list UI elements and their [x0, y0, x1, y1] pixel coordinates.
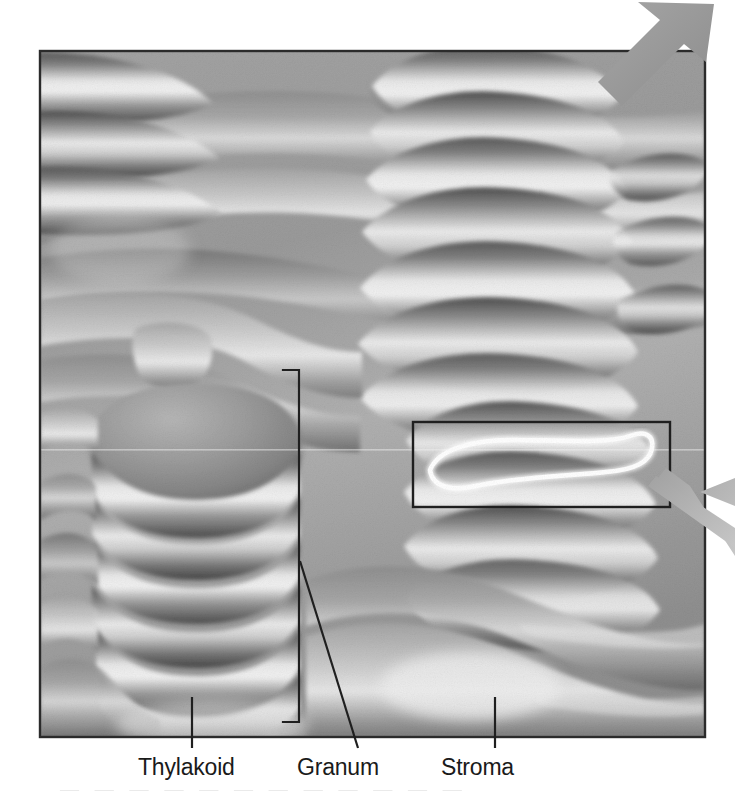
label-granum: Granum [297, 756, 379, 779]
label-thylakoid: Thylakoid [138, 756, 235, 779]
page-bleed-through: — — — — — — — — — — — — [60, 778, 468, 800]
figure-root: — — — — — — — — — — — — Thylakoid Granum… [0, 0, 735, 809]
label-stroma: Stroma [441, 756, 514, 779]
membrane-fold [132, 322, 212, 388]
micrograph-plate [36, 45, 720, 748]
chloroplast-illustration [0, 0, 735, 809]
scan-seam [40, 449, 705, 451]
